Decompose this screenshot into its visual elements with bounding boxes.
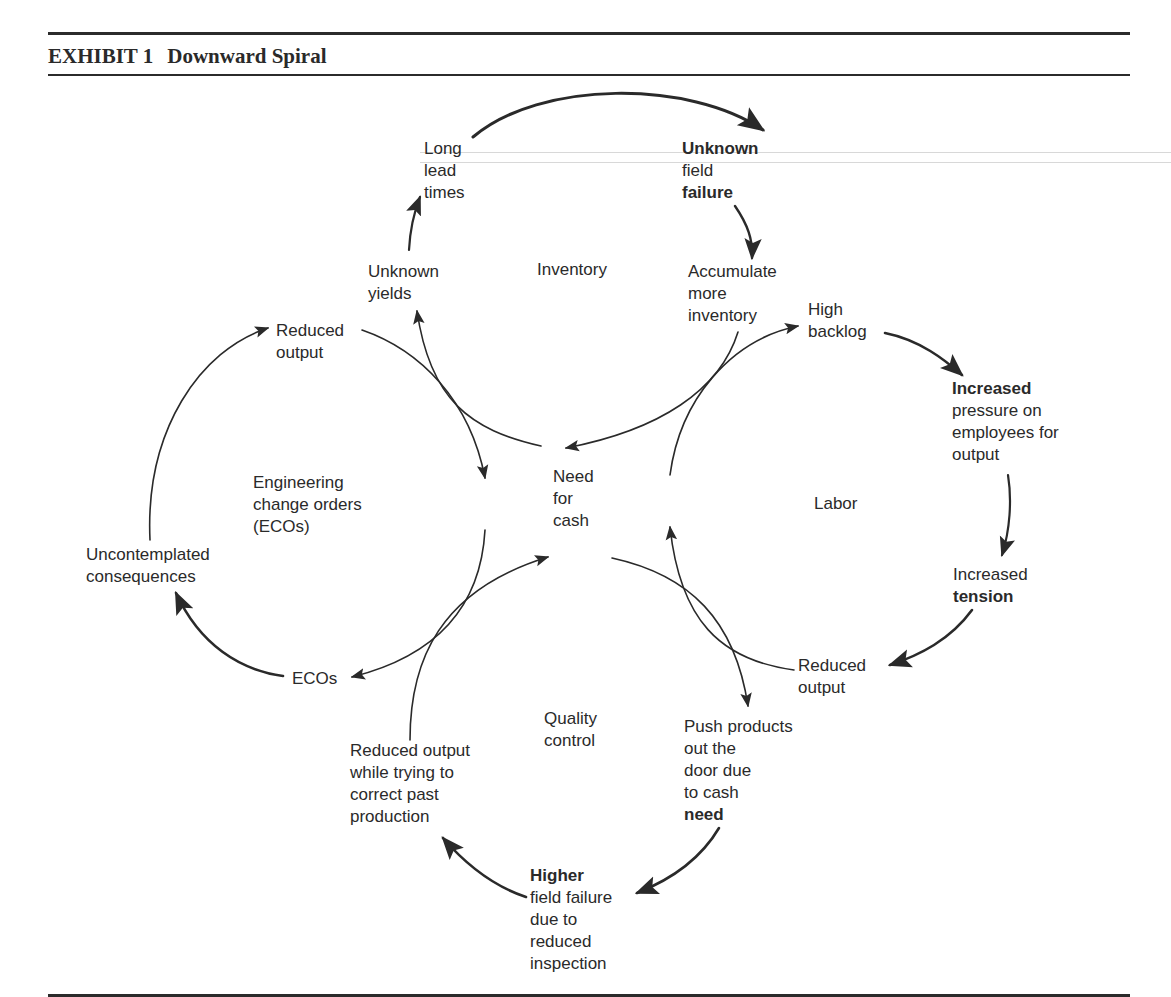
arrow-cash-to-high-backlog: [670, 326, 798, 475]
arrow-cash-to-push-products: [612, 558, 748, 706]
arrow-reduced-output-to-cash: [362, 330, 485, 478]
arrow-cash-to-ecos: [352, 530, 485, 677]
node-high-backlog: High backlog: [808, 299, 867, 343]
arrow-yields-to-lead: [409, 197, 420, 250]
arrow-push-products-to-higher-failure: [637, 828, 719, 893]
loop-label-inventory: Inventory: [537, 259, 607, 281]
arrow-lead-to-field-failure: [473, 93, 763, 137]
loop-label-labor: Labor: [814, 493, 857, 515]
arrow-higher-failure-to-reduced-output: [443, 838, 526, 897]
node-push-products: Push products out the door due to cash n…: [684, 716, 793, 826]
node-long-lead-times: Long lead times: [424, 138, 465, 204]
node-accumulate-more-inventory: Accumulate more inventory: [688, 261, 777, 327]
loop-label-engineering-change-orders: Engineering change orders (ECOs): [253, 472, 362, 538]
arrow-backlog-to-pressure: [885, 333, 962, 375]
arrow-consequences-to-reduced-output: [150, 328, 268, 540]
node-need-for-cash: Need for cash: [553, 466, 594, 532]
arrow-pressure-to-tension: [1002, 475, 1010, 555]
arrow-accumulate-to-cash: [566, 332, 738, 448]
node-increased-tension: Increased tension: [953, 564, 1028, 608]
node-increased-pressure: Increased pressure on employees for outp…: [952, 378, 1059, 466]
node-uncontemplated-consequences: Uncontemplated consequences: [86, 544, 210, 588]
node-unknown-yields: Unknown yields: [368, 261, 439, 305]
arrow-tension-to-reduced-output: [890, 610, 972, 665]
node-ecos: ECOs: [292, 668, 337, 690]
arrow-field-failure-to-accumulate: [735, 206, 752, 258]
node-eco-reduced-output: Reduced output: [276, 320, 344, 364]
node-reduced-output-correcting: Reduced output while trying to correct p…: [350, 740, 470, 828]
arrow-reduced-output-to-cash: [410, 557, 548, 740]
node-unknown-field-failure: Unknown field failure: [682, 138, 759, 204]
node-higher-field-failure: Higher field failure due to reduced insp…: [530, 865, 612, 975]
arrow-ecos-to-consequences: [176, 593, 283, 676]
loop-label-quality-control: Quality control: [544, 708, 597, 752]
node-labor-reduced-output: Reduced output: [798, 655, 866, 699]
